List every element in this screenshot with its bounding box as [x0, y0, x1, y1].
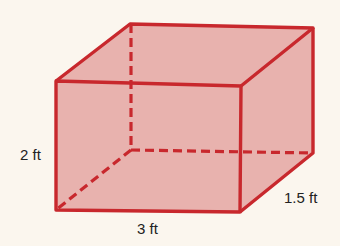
rectangular-prism-diagram	[0, 0, 340, 246]
length-label: 3 ft	[137, 221, 158, 236]
height-label: 2 ft	[20, 147, 41, 162]
width-label: 1.5 ft	[284, 190, 317, 205]
